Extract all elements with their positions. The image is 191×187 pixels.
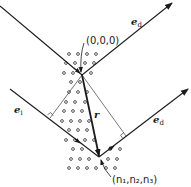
diffracted-vector-label-upper: ed bbox=[131, 16, 142, 29]
incident-ray-upper bbox=[0, 6, 82, 75]
perpendicular-incident bbox=[50, 75, 82, 118]
position-vector-label: r bbox=[94, 109, 100, 120]
incident-vector-label: ei bbox=[14, 104, 23, 117]
origin-pointer bbox=[81, 43, 84, 72]
lattice-pointer bbox=[101, 160, 111, 177]
right-angle-mark-diffracted bbox=[121, 133, 124, 139]
scattering-diagram: (0,0,0) (n₁,n₂,n₃) ed ed ei r bbox=[0, 0, 191, 187]
diffracted-vector-label-lower: ed bbox=[153, 114, 164, 127]
incident-ray-lower bbox=[10, 89, 99, 157]
origin-label: (0,0,0) bbox=[86, 35, 119, 46]
right-angle-mark-incident bbox=[48, 113, 54, 116]
lattice-point-label: (n₁,n₂,n₃) bbox=[112, 174, 157, 185]
lattice-points bbox=[61, 53, 122, 170]
diagram-canvas: (0,0,0) (n₁,n₂,n₃) ed ed ei r bbox=[0, 0, 191, 187]
incident-arrow-upper bbox=[74, 68, 80, 73]
